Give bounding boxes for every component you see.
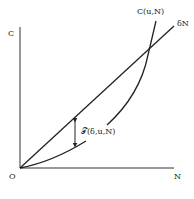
diagram-canvas [0, 0, 194, 199]
delta-n-label: δN [177, 20, 189, 28]
y-axis-label: C [8, 30, 14, 38]
delta-n-line [20, 26, 174, 168]
cost-curve-upper [107, 21, 156, 125]
x-axis-label: N [174, 173, 181, 181]
origin-label: O [9, 173, 16, 181]
cost-curve-label: C(u,N) [137, 8, 164, 16]
gap-label: 𝒯(δ,u,N) [81, 128, 115, 136]
cost-curve-lower [20, 141, 86, 168]
